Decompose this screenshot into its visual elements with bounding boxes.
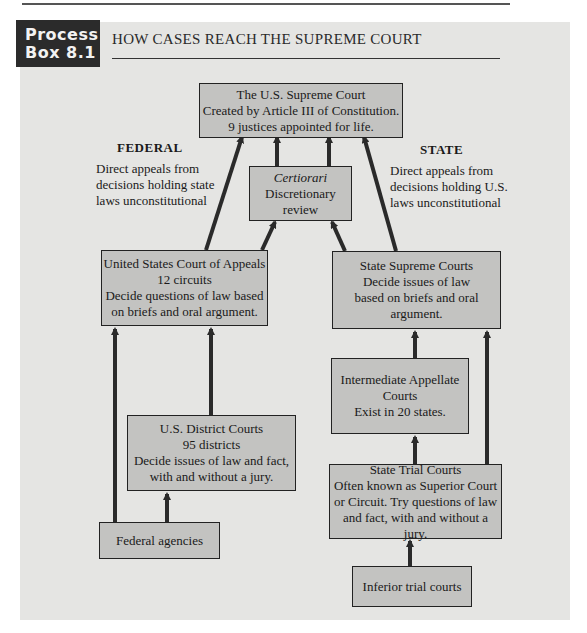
arrow-state-to-cert xyxy=(332,222,345,251)
federal-agencies-box: Federal agencies xyxy=(99,522,220,559)
court-of-appeals-box: United States Court of Appeals 12 circui… xyxy=(101,250,268,326)
state-trial-courts-box: State Trial Courts Often known as Superi… xyxy=(329,464,502,539)
arrow-appeals-to-cert xyxy=(262,222,275,250)
state-note: Direct appeals from decisions holding U.… xyxy=(390,163,508,211)
district-courts-box: U.S. District Courts 95 districts Decide… xyxy=(127,415,296,491)
inferior-trial-courts-box: Inferior trial courts xyxy=(352,566,472,607)
supreme-court-box: The U.S. Supreme Court Created by Articl… xyxy=(199,83,403,138)
certiorari-box: Certiorari Discretionary review xyxy=(249,166,352,221)
state-supreme-courts-box: State Supreme Courts Decide issues of la… xyxy=(332,251,501,329)
intermediate-appellate-box: Intermediate Appellate Courts Exist in 2… xyxy=(331,358,469,434)
federal-heading: FEDERAL xyxy=(117,140,183,156)
state-heading: STATE xyxy=(420,142,463,158)
federal-note: Direct appeals from decisions holding st… xyxy=(96,161,214,209)
